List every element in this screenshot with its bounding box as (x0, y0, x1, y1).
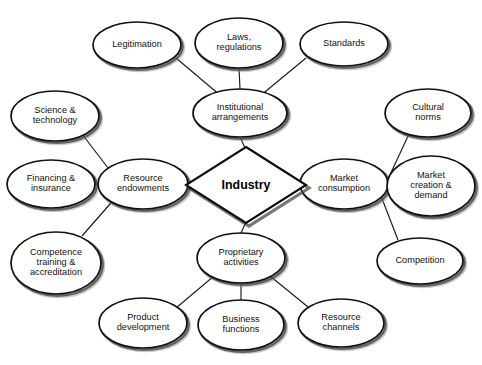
node-label: Science &technology (33, 105, 78, 125)
edge-proprietary-activities-to-product-development (176, 276, 214, 308)
node-label-line: training & (37, 257, 76, 267)
node-cultural-norms[interactable]: Culturalnorms (385, 89, 474, 140)
node-product-development[interactable]: Productdevelopment (99, 298, 190, 351)
node-label-line: demand (414, 191, 447, 201)
node-label-line: Financing & (27, 173, 76, 183)
node-label-line: Cultural (412, 102, 444, 112)
node-label: Institutionalarrangements (212, 102, 269, 122)
node-science-technology[interactable]: Science &technology (11, 91, 102, 144)
node-market-consumption[interactable]: Marketconsumption (300, 159, 391, 212)
node-label-line: Laws, (227, 32, 251, 42)
node-label: Resourceendowments (117, 173, 169, 193)
node-label-line: Institutional (217, 102, 263, 112)
node-label-line: accreditation (30, 268, 82, 278)
node-proprietary-activities[interactable]: Proprietaryactivities (197, 233, 288, 286)
node-label-line: arrangements (212, 113, 269, 123)
node-label-line: norms (415, 113, 441, 123)
node-label-line: channels (323, 323, 360, 333)
node-label: Legitimation (112, 39, 162, 49)
node-label-line: activities (223, 258, 259, 268)
node-market-creation-demand[interactable]: Marketcreation &demand (387, 156, 478, 219)
node-label-line: Proprietary (219, 247, 264, 257)
node-label-line: Resource (321, 312, 360, 322)
node-label-line: Resource (123, 173, 162, 183)
node-competition[interactable]: Competition (377, 238, 466, 287)
node-resource-channels[interactable]: Resourcechannels (298, 299, 387, 350)
node-label: Competencetraining &accreditation (30, 247, 82, 278)
node-label-line: Market (417, 170, 446, 180)
node-label-line: Standards (323, 38, 365, 48)
node-competence-training-accreditation[interactable]: Competencetraining &accreditation (11, 232, 104, 297)
node-label-line: Business (222, 314, 260, 324)
node-label-line: consumption (318, 184, 370, 194)
node-label-line: Market (330, 173, 359, 183)
edge-proprietary-activities-to-resource-channels (270, 276, 308, 307)
node-financing-insurance[interactable]: Financing &insurance (7, 160, 98, 211)
node-label-line: technology (33, 116, 78, 126)
center-node-layer: Industry (186, 147, 309, 226)
node-label-line: Science & (34, 105, 75, 115)
node-label-line: regulations (217, 43, 262, 53)
node-label-line: Competition (395, 255, 444, 265)
node-label-line: Competence (30, 247, 82, 257)
node-institutional-arrangements[interactable]: Institutionalarrangements (193, 89, 290, 140)
node-label-line: endowments (117, 184, 169, 194)
node-resource-endowments[interactable]: Resourceendowments (98, 159, 191, 212)
center-node-label: Industry (222, 178, 271, 192)
node-label-line: functions (223, 325, 260, 335)
industry-diagram: LegitimationLaws,regulationsStandardsIns… (0, 0, 482, 365)
node-laws-regulations[interactable]: Laws,regulations (195, 18, 286, 71)
node-label: Standards (323, 38, 365, 48)
node-label: Proprietaryactivities (219, 247, 264, 267)
node-label: Financing &insurance (27, 173, 76, 193)
node-label: Competition (395, 255, 444, 265)
node-label: Culturalnorms (412, 102, 444, 122)
diagram-canvas: LegitimationLaws,regulationsStandardsIns… (0, 0, 482, 365)
node-label: Businessfunctions (222, 314, 260, 334)
node-label: Resourcechannels (321, 312, 360, 332)
node-label-line: creation & (410, 180, 451, 190)
node-label-line: Product (127, 312, 159, 322)
node-label-line: development (117, 323, 170, 333)
node-business-functions[interactable]: Businessfunctions (198, 300, 287, 353)
node-standards[interactable]: Standards (300, 22, 391, 69)
node-label-line: Legitimation (112, 39, 162, 49)
node-legitimation[interactable]: Legitimation (93, 22, 184, 71)
node-label-line: insurance (31, 184, 71, 194)
node-industry[interactable]: Industry (186, 147, 309, 226)
